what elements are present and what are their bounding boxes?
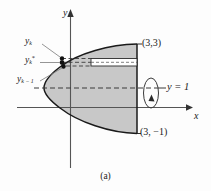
revolution-ellipse <box>144 78 159 108</box>
tick-dot-y-k <box>60 56 64 60</box>
figure-canvas <box>0 0 211 191</box>
label-y-k-subscript: k <box>29 40 32 46</box>
figure-container: y x yk yk* yk − 1 (3,3) (3, −1) y = 1 (a… <box>0 0 211 191</box>
y-axis-arrowhead <box>67 9 73 17</box>
label-y-k-star-superscript: * <box>32 54 35 61</box>
shaded-region <box>44 44 137 134</box>
tick-dot-y-k-star <box>60 60 65 65</box>
label-y-k: yk <box>25 37 32 47</box>
revolution-arrowhead <box>149 95 155 102</box>
label-point-bottom: (3, −1) <box>140 127 167 137</box>
label-y-k-minus-1: yk − 1 <box>17 75 34 85</box>
x-axis-label: x <box>194 111 198 121</box>
figure-caption: (a) <box>0 172 211 182</box>
label-y-k-minus-1-subscript: k − 1 <box>21 78 33 84</box>
leader-line-y-k <box>42 44 60 57</box>
y-axis-label: y <box>63 8 67 18</box>
label-axis-of-revolution: y = 1 <box>167 82 189 93</box>
x-axis-arrowhead <box>186 104 193 110</box>
label-point-top: (3,3) <box>142 38 161 48</box>
label-y-k-star: yk* <box>25 55 35 66</box>
